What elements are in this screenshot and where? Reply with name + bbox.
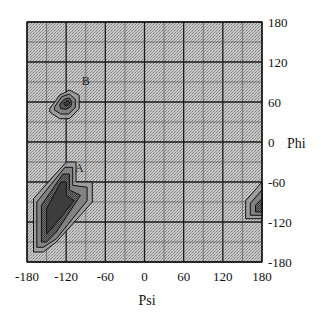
x-tick-label: 0 bbox=[141, 269, 148, 284]
ramachandran-plot: -180-120-60060120180 180120600-60-120-18… bbox=[0, 0, 321, 317]
y-tick-label: 60 bbox=[268, 95, 281, 110]
x-tick-label: 120 bbox=[213, 269, 233, 284]
y-tick-label: -120 bbox=[268, 215, 292, 230]
x-axis-ticks: -180-120-60060120180 bbox=[15, 269, 272, 284]
x-tick-label: 180 bbox=[252, 269, 272, 284]
x-tick-label: 60 bbox=[177, 269, 190, 284]
y-tick-label: 120 bbox=[268, 55, 288, 70]
y-tick-label: -180 bbox=[268, 255, 292, 270]
x-axis-label: Psi bbox=[138, 293, 155, 308]
y-axis-label: Phi bbox=[287, 136, 306, 151]
x-tick-label: -60 bbox=[97, 269, 114, 284]
y-tick-label: 0 bbox=[268, 135, 275, 150]
region-label-B: B bbox=[82, 74, 90, 88]
y-tick-label: -60 bbox=[268, 175, 285, 190]
region-label-A: A bbox=[75, 161, 84, 175]
x-tick-label: -120 bbox=[54, 269, 78, 284]
x-tick-label: -180 bbox=[15, 269, 39, 284]
y-tick-label: 180 bbox=[268, 15, 288, 30]
